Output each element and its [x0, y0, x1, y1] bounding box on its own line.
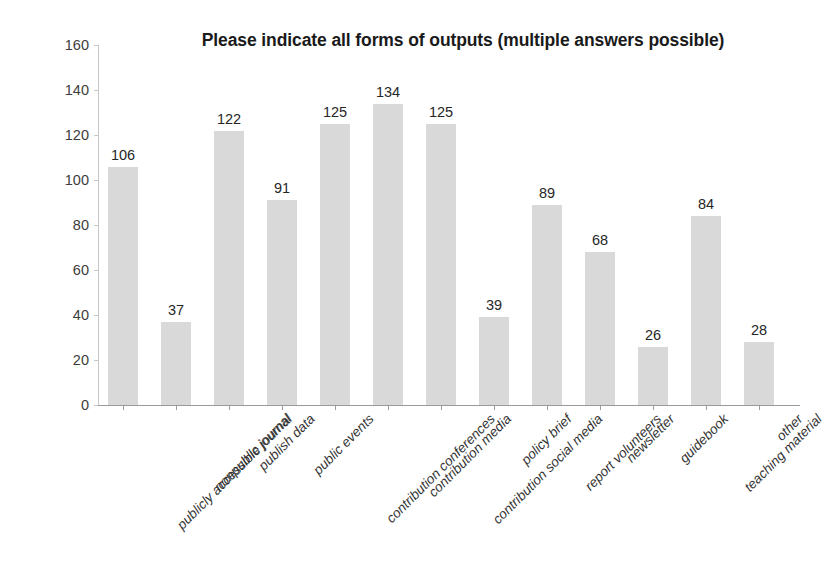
x-axis-tick-mark [653, 405, 654, 410]
bar[interactable]: 84 [691, 216, 721, 405]
y-axis-tick-label: 60 [73, 262, 89, 278]
bar[interactable]: 26 [638, 347, 668, 406]
x-axis-category-label: public events [311, 412, 376, 477]
x-axis-tick-mark [494, 405, 495, 410]
y-axis-tick-label: 120 [65, 127, 89, 143]
x-axis-tick-mark [388, 405, 389, 410]
x-axis-tick-mark [176, 405, 177, 410]
x-axis-category-label: contribution media [426, 412, 514, 500]
bar-value-label: 122 [217, 111, 241, 127]
bar-value-label: 134 [376, 84, 400, 100]
x-axis-tick-mark [229, 405, 230, 410]
plot-area: 020406080100120140160 106371229112513412… [98, 45, 800, 405]
bar-value-label: 68 [592, 232, 608, 248]
y-axis-tick-label: 80 [73, 217, 89, 233]
y-axis-tick-mark [94, 315, 98, 316]
x-axis-tick-mark [335, 405, 336, 410]
bar-value-label: 28 [751, 322, 767, 338]
y-axis-tick-label: 0 [81, 397, 89, 413]
y-axis-tick-mark [94, 180, 98, 181]
bar[interactable]: 134 [373, 104, 403, 406]
x-axis-category-label: contribution conferences [384, 412, 498, 526]
x-axis-category-label: guidebook [677, 412, 731, 466]
bar[interactable]: 89 [532, 205, 562, 405]
y-axis-tick-label: 20 [73, 352, 89, 368]
bar[interactable]: 39 [479, 317, 509, 405]
bar[interactable]: 106 [108, 167, 138, 406]
x-axis-tick-mark [123, 405, 124, 410]
y-axis-tick-label: 100 [65, 172, 89, 188]
bar[interactable]: 91 [267, 200, 297, 405]
bar-value-label: 106 [111, 147, 135, 163]
bar-value-label: 37 [168, 302, 184, 318]
x-axis-tick-mark [282, 405, 283, 410]
y-axis-tick-mark [94, 360, 98, 361]
y-axis-tick-mark [94, 45, 98, 46]
y-axis-tick-mark [94, 225, 98, 226]
x-axis-line [98, 405, 800, 406]
bar-value-label: 39 [486, 297, 502, 313]
bar[interactable]: 37 [161, 322, 191, 405]
x-axis-tick-mark [547, 405, 548, 410]
y-axis-tick-mark [94, 270, 98, 271]
bar[interactable]: 125 [426, 124, 456, 405]
bar-value-label: 84 [698, 196, 714, 212]
y-axis-tick-mark [94, 135, 98, 136]
bar[interactable]: 125 [320, 124, 350, 405]
bar-value-label: 91 [274, 180, 290, 196]
bar[interactable]: 68 [585, 252, 615, 405]
y-axis-tick-label: 140 [65, 82, 89, 98]
bar[interactable]: 122 [214, 131, 244, 406]
y-axis-tick-label: 160 [65, 37, 89, 53]
bar-value-label: 26 [645, 327, 661, 343]
bar-value-label: 125 [323, 104, 347, 120]
bar-value-label: 89 [539, 185, 555, 201]
x-axis-tick-mark [441, 405, 442, 410]
bar[interactable]: 28 [744, 342, 774, 405]
x-axis-tick-mark [600, 405, 601, 410]
bar-value-label: 125 [429, 104, 453, 120]
y-axis-tick-mark [94, 90, 98, 91]
y-axis-tick-mark [94, 405, 98, 406]
y-axis-tick-label: 40 [73, 307, 89, 323]
x-axis-tick-mark [759, 405, 760, 410]
x-axis-tick-mark [706, 405, 707, 410]
